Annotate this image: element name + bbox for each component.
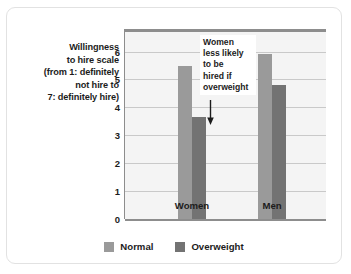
annotation-line: less likely bbox=[203, 48, 254, 59]
y-axis-label: Willingness to hire scale (from 1: defin… bbox=[9, 41, 119, 104]
annotation-line: overweight bbox=[203, 82, 254, 93]
chart-legend: NormalOverweight bbox=[7, 241, 341, 252]
y-axis-label-line: not hire to bbox=[9, 79, 119, 92]
y-axis-label-line: 7: definitely hire) bbox=[9, 91, 119, 104]
y-axis-label-line: Willingness bbox=[9, 41, 119, 54]
annotation-line: to be bbox=[203, 59, 254, 70]
y-axis-tick-label: 1 bbox=[115, 186, 120, 197]
x-axis-label-men: Men bbox=[262, 200, 281, 211]
gridline bbox=[125, 135, 326, 136]
y-axis-label-line: (from 1: definitely bbox=[9, 66, 119, 79]
y-axis-tick-label: 3 bbox=[115, 130, 120, 141]
y-axis-label-line: to hire scale bbox=[9, 54, 119, 67]
y-axis-tick-label: 0 bbox=[115, 214, 120, 225]
legend-item-overweight[interactable]: Overweight bbox=[175, 241, 243, 252]
annotation-callout: Women less likely to be hired if overwei… bbox=[200, 35, 256, 95]
x-axis-line bbox=[125, 219, 326, 221]
gridline bbox=[125, 191, 326, 192]
gridline bbox=[125, 107, 326, 108]
legend-label-overweight: Overweight bbox=[191, 241, 243, 252]
legend-label-normal: Normal bbox=[120, 241, 153, 252]
bar-men-normal bbox=[258, 54, 272, 219]
y-axis-tick-label: 4 bbox=[115, 102, 120, 113]
down-arrow-icon bbox=[206, 100, 215, 126]
bar-men-overweight bbox=[272, 85, 286, 219]
annotation-line: Women bbox=[203, 37, 254, 48]
legend-item-normal[interactable]: Normal bbox=[104, 241, 153, 252]
y-axis-tick-label: 2 bbox=[115, 158, 120, 169]
legend-swatch-overweight bbox=[175, 242, 185, 252]
legend-swatch-normal bbox=[104, 242, 114, 252]
x-axis-label-women: Women bbox=[175, 200, 209, 211]
y-axis-tick-label: 6 bbox=[115, 46, 120, 57]
gridline bbox=[125, 163, 326, 164]
annotation-line: hired if bbox=[203, 71, 254, 82]
y-axis-tick-label: 5 bbox=[115, 74, 120, 85]
figure-card: Willingness to hire scale (from 1: defin… bbox=[6, 7, 342, 264]
bar-women-normal bbox=[178, 66, 192, 220]
